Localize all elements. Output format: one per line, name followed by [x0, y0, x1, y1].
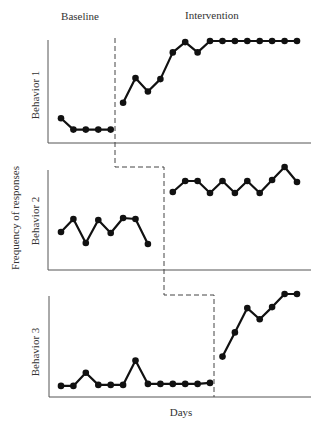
data-point [244, 305, 251, 312]
data-point [194, 178, 201, 185]
data-point [107, 126, 114, 133]
data-point [281, 164, 288, 171]
data-point [170, 381, 177, 388]
multiple-baseline-chart: Baseline Intervention Frequency of respo… [0, 0, 322, 428]
data-point [70, 216, 77, 223]
data-point [145, 88, 152, 95]
data-point [256, 316, 263, 323]
data-point [157, 76, 164, 83]
data-point [281, 291, 288, 298]
data-point [170, 49, 177, 56]
data-point [256, 38, 263, 45]
data-point [232, 38, 239, 45]
data-point [132, 75, 139, 82]
data-point [145, 241, 152, 248]
data-point [83, 370, 90, 377]
data-point [207, 38, 214, 45]
data-point [120, 382, 127, 389]
data-point [58, 229, 65, 236]
data-point [83, 240, 90, 247]
data-point [294, 38, 301, 45]
data-point [269, 38, 276, 45]
data-point [207, 380, 214, 387]
data-point [170, 189, 177, 196]
data-point [182, 381, 189, 388]
data-point [58, 115, 65, 122]
data-point [58, 383, 65, 390]
axis-behavior-3 [49, 296, 311, 397]
y-axis-label: Frequency of responses [9, 166, 21, 270]
line-intervention [223, 294, 298, 357]
data-point [132, 216, 139, 223]
series-behavior-3 [58, 291, 301, 390]
data-point [281, 38, 288, 45]
phase-label-intervention: Intervention [185, 9, 239, 21]
data-point [194, 381, 201, 388]
data-point [157, 381, 164, 388]
data-point [120, 215, 127, 222]
x-axis-label: Days [170, 406, 193, 418]
series-behavior-1 [58, 38, 301, 133]
data-point [207, 190, 214, 197]
data-point [95, 382, 102, 389]
data-point [182, 39, 189, 46]
panel-behavior-3: Behavior 3 [29, 291, 311, 397]
panel-behavior-2: Behavior 2 [29, 164, 311, 270]
data-point [256, 190, 263, 197]
data-point [182, 178, 189, 185]
data-point [219, 353, 226, 360]
data-point [194, 49, 201, 56]
data-point [269, 177, 276, 184]
data-point [83, 126, 90, 133]
data-point [244, 38, 251, 45]
data-point [70, 383, 77, 390]
panel-behavior-1: Behavior 1 [29, 38, 311, 143]
data-point [232, 190, 239, 197]
line-intervention [173, 167, 297, 193]
data-point [145, 381, 152, 388]
data-point [70, 126, 77, 133]
data-point [219, 38, 226, 45]
data-point [244, 178, 251, 185]
data-point [269, 304, 276, 311]
series-behavior-2 [58, 164, 301, 248]
data-point [120, 100, 127, 107]
data-point [107, 382, 114, 389]
panel-label-behavior-3: Behavior 3 [29, 327, 41, 376]
data-point [95, 126, 102, 133]
data-point [132, 357, 139, 364]
data-point [107, 230, 114, 237]
data-point [294, 291, 301, 298]
data-point [294, 179, 301, 186]
panel-label-behavior-1: Behavior 1 [29, 71, 41, 120]
panel-label-behavior-2: Behavior 2 [29, 197, 41, 246]
phase-label-baseline: Baseline [61, 10, 99, 22]
data-point [232, 329, 239, 336]
data-point [219, 178, 226, 185]
data-point [95, 217, 102, 224]
